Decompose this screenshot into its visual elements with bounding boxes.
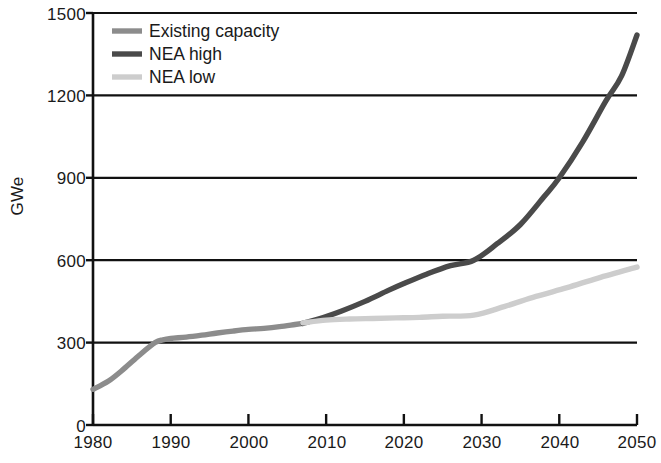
- legend-label: NEA low: [149, 67, 215, 87]
- legend-label: Existing capacity: [149, 21, 280, 41]
- series-line: [93, 323, 303, 389]
- series-line: [303, 267, 637, 323]
- data-series-layer: [93, 35, 637, 389]
- legend-label: NEA high: [149, 44, 222, 64]
- chart-legend: Existing capacityNEA highNEA low: [112, 21, 280, 87]
